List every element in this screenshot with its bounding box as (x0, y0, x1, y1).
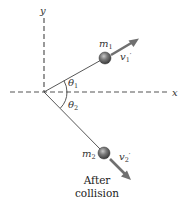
theta1-label: θ1 (68, 77, 78, 90)
caption-line-1: After (83, 174, 112, 186)
v2-prime-label: v2′ (119, 151, 131, 164)
m1-label: m1 (99, 38, 113, 51)
collision-diagram: y x θ1 θ2 (0, 0, 187, 205)
x-axis-label: x (172, 87, 178, 98)
m2-ball (98, 147, 110, 159)
m1-ball (99, 52, 111, 64)
m2-label: m2 (82, 148, 96, 161)
caption-line-2: collision (75, 187, 119, 199)
theta2-arc (61, 92, 68, 108)
v1-prime-label: v1′ (120, 51, 132, 64)
diagram-canvas: y x θ1 θ2 (0, 0, 187, 205)
y-axis-label: y (39, 5, 46, 16)
theta2-label: θ2 (68, 99, 78, 112)
theta1-arc (64, 81, 67, 92)
